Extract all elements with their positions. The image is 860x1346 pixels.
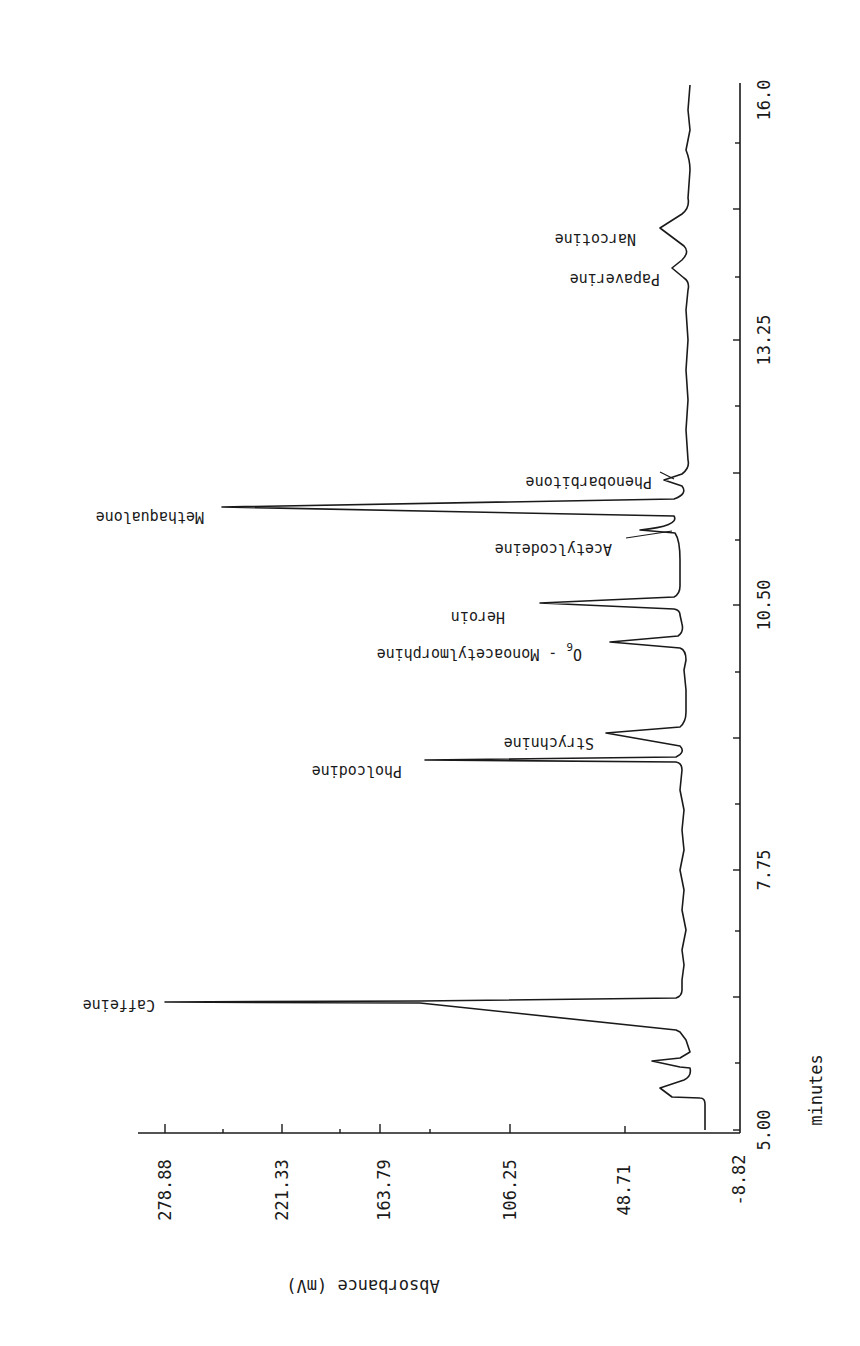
label-monoacetylmorphine: O6 - Monoacetylmorphine xyxy=(377,640,582,663)
label-acetylcodeine: Acetylcodeine xyxy=(495,540,612,558)
acetylcodeine-leader xyxy=(626,531,672,538)
chromatogram-chart: 5.00 7.75 10.50 13.25 16.0 minutes 278.8… xyxy=(0,0,860,1346)
time-tick-10-50: 10.50 xyxy=(754,579,774,630)
abs-tick-48-71: 48.71 xyxy=(614,1164,634,1215)
time-tick-7-75: 7.75 xyxy=(754,850,774,891)
absorbance-tick-labels: 278.88 221.33 163.79 106.25 48.71 -8.82 xyxy=(155,1154,749,1220)
abs-tick-163-79: 163.79 xyxy=(374,1159,394,1220)
time-tick-13-25: 13.25 xyxy=(754,314,774,365)
abs-tick-221-33: 221.33 xyxy=(272,1159,292,1220)
label-caffeine: Caffeine xyxy=(83,996,155,1014)
label-heroin: Heroin xyxy=(451,608,505,626)
abs-tick-neg-8-82: -8.82 xyxy=(729,1154,749,1205)
peak-labels: Caffeine Pholcodine Strychnine O6 - Mono… xyxy=(83,230,660,1014)
absorbance-axis-ticks xyxy=(165,1124,625,1133)
label-pholcodine: Pholcodine xyxy=(312,762,402,780)
label-papaverine: Papaverine xyxy=(570,270,660,288)
label-phenobarbitone: Phenobarbitone xyxy=(526,473,652,491)
time-axis-ticks xyxy=(733,143,740,1130)
abs-tick-278-88: 278.88 xyxy=(155,1159,175,1220)
abs-tick-106-25: 106.25 xyxy=(500,1159,520,1220)
time-tick-labels: 5.00 7.75 10.50 13.25 16.0 xyxy=(754,80,774,1151)
time-tick-5: 5.00 xyxy=(754,1110,774,1151)
phenobarbitone-leader xyxy=(660,472,674,479)
time-axis-title: minutes xyxy=(806,1054,826,1126)
label-methaqualone: Methaqualone xyxy=(96,508,204,526)
time-tick-16: 16.0 xyxy=(754,80,774,121)
absorbance-axis-title: Absorbance (mV) xyxy=(286,1276,440,1296)
label-narcotine: Narcotine xyxy=(555,230,636,248)
label-strychnine: Strychnine xyxy=(504,734,594,752)
